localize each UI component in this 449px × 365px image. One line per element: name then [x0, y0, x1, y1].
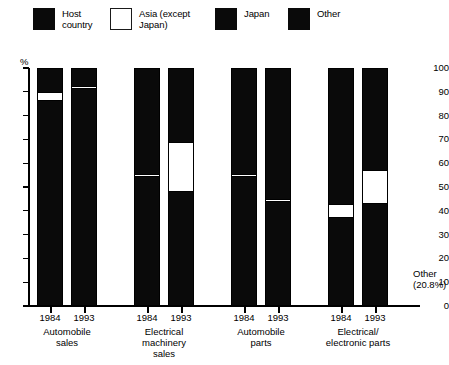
chart-legend: Host country Asia (except Japan) Japan O…: [0, 8, 449, 48]
bar-segment-asia: [328, 204, 354, 218]
x-axis-group-label: Electrical/ electronic parts: [310, 326, 406, 348]
y-axis-tick-label: 100: [427, 63, 449, 73]
bar-segment-asia: [231, 174, 257, 178]
bar-segment-host: [362, 204, 388, 306]
chart-figure: Host country Asia (except Japan) Japan O…: [0, 0, 449, 365]
bar-1984-1993-1993[interactable]: [71, 68, 97, 306]
x-axis-year-label: 1993: [258, 312, 298, 323]
legend-label-other: Other: [317, 8, 340, 20]
bar-segment-host: [71, 89, 97, 306]
bar-segment-japan: [231, 68, 257, 174]
bar-segment-asia: [37, 92, 63, 102]
y-axis-title: %: [20, 56, 28, 67]
bar-1984-1993-1993[interactable]: [168, 68, 194, 306]
plot-area: % 0102030405060708090100: [0, 56, 449, 316]
bar-segment-asia: [71, 86, 97, 90]
legend-label-japan: Japan: [244, 8, 269, 20]
bar-1984-1993-1984[interactable]: [328, 68, 354, 306]
legend-item-other: Other: [288, 8, 340, 30]
bar-segment-japan: [168, 68, 194, 142]
bar-segment-asia: [168, 142, 194, 192]
bar-1984-1993-1984[interactable]: [231, 68, 257, 306]
bar-segment-host: [37, 101, 63, 306]
bar-segment-host: [231, 177, 257, 306]
y-axis-tick-label: 50: [427, 182, 449, 192]
legend-item-host-country: Host country: [33, 8, 92, 30]
y-axis-tick-label: 30: [427, 230, 449, 240]
bar-segment-japan: [37, 68, 63, 92]
y-axis-tick-label: 90: [427, 87, 449, 97]
y-axis-tick-label: 60: [427, 158, 449, 168]
bar-1984-1993-1984[interactable]: [134, 68, 160, 306]
bar-segment-host: [265, 202, 291, 306]
bar-segment-japan: [362, 68, 388, 170]
x-axis-group-label: Electrical machinery sales: [116, 326, 212, 359]
y-axis-tick-label: 20: [427, 253, 449, 263]
legend-swatch-japan-icon: [215, 8, 237, 30]
x-axis-labels: 19841993Automobile sales19841993Electric…: [0, 312, 449, 365]
bar-1984-1993-1993[interactable]: [362, 68, 388, 306]
x-axis-year-label: 1993: [64, 312, 104, 323]
x-axis-group-label: Automobile sales: [19, 326, 115, 348]
x-axis-year-label: 1993: [161, 312, 201, 323]
bars-container: [28, 68, 420, 306]
legend-swatch-other-icon: [288, 8, 310, 30]
legend-label-asia-except-japan: Asia (except Japan): [139, 8, 190, 30]
bar-segment-host: [134, 177, 160, 306]
y-axis-tick-label: 80: [427, 111, 449, 121]
bar-segment-japan: [328, 68, 354, 204]
x-axis-group-label: Automobile parts: [213, 326, 309, 348]
legend-swatch-asia-except-japan-icon: [110, 8, 132, 30]
bar-segment-host: [328, 218, 354, 306]
y-axis-tick-label: 0: [427, 301, 449, 311]
y-axis-tick-label: 70: [427, 134, 449, 144]
x-axis-year-label: 1993: [355, 312, 395, 323]
legend-label-host-country: Host country: [62, 8, 92, 30]
legend-swatch-host-country-icon: [33, 8, 55, 30]
legend-item-asia-except-japan: Asia (except Japan): [110, 8, 190, 30]
bar-segment-asia: [362, 170, 388, 203]
bar-segment-japan: [134, 68, 160, 174]
bar-segment-asia: [265, 199, 291, 203]
legend-item-japan: Japan: [215, 8, 269, 30]
bar-1984-1993-1984[interactable]: [37, 68, 63, 306]
bar-segment-japan: [265, 68, 291, 199]
bar-segment-host: [168, 192, 194, 306]
bar-segment-asia: [134, 174, 160, 178]
y-axis-tick-label: 40: [427, 206, 449, 216]
bar-1984-1993-1993[interactable]: [265, 68, 291, 306]
bar-segment-japan: [71, 68, 97, 86]
annotation-other-share: Other (20.8%): [413, 268, 446, 290]
